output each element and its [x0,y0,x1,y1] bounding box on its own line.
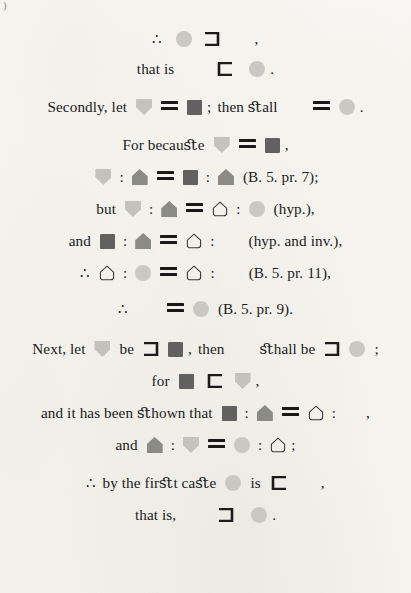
comma: , [254,30,260,48]
shall-be-text: ﬆhall be [259,340,317,358]
ratio-colon: : [115,169,127,186]
circle-symbol [339,99,355,115]
semicolon: ; [373,340,379,358]
be-text: be [118,340,135,358]
shield-symbol [125,201,141,217]
for-text: for [151,372,171,390]
circle-symbol [249,201,265,217]
period: . [269,60,275,78]
and-text: and [114,436,138,454]
house-pentagon-symbol [135,233,151,249]
equals-symbol [239,139,256,151]
circle-symbol [135,265,151,281]
and-text: and [68,232,92,250]
diamond-symbol [299,475,316,491]
by-the-first-case-text: by the firﬆt caﬆe [101,474,217,492]
hollow-pentagon-symbol [186,265,202,281]
house-pentagon-symbol [147,437,163,453]
then-shall-text: then ﬆall [216,98,278,116]
ratio-colon: : [232,201,244,218]
superset-bracket-symbol [205,32,220,46]
and-it-has-been-shown-that-text: and it has been ﬆhown that [40,404,214,422]
comma: , [284,136,290,154]
secondly-let-text: Secondly, let [46,98,128,116]
hollow-pentagon-symbol [270,437,286,453]
then-text: then [197,340,226,358]
hollow-pentagon-symbol [308,405,324,421]
proof-line-14: ∴ by the firﬆt caﬆe is , [0,474,411,492]
that-is-text: that is [136,60,175,78]
diamond-symbol [344,405,361,421]
diamond-symbol [183,61,200,77]
shield-symbol [235,373,251,389]
square-symbol [187,100,202,115]
hollow-pentagon-symbol [99,265,115,281]
circle-symbol [251,507,267,523]
proof-line-8: ∴ : : (B. 5. pr. 11), [0,264,411,282]
equals-symbol [157,171,174,183]
square-symbol [222,406,237,421]
ratio-colon: : [145,201,157,218]
circle-symbol [176,31,192,47]
equals-symbol [208,439,225,451]
next-let-text: Next, let [31,340,86,358]
circle-symbol [225,475,241,491]
proof-line-15: that is, . [0,506,411,524]
comma: , [255,372,261,390]
shield-symbol [94,341,110,357]
therefore-symbol: ∴ [117,300,129,318]
proof-line-10: Next, let be , then ﬆhall be ; [0,340,411,358]
house-pentagon-symbol [218,169,234,185]
citation-reference: (hyp. and inv.), [247,232,343,250]
diamond-symbol [223,265,240,281]
square-symbol [183,170,198,185]
comma: , [365,404,371,422]
subset-bracket-symbol [271,476,286,490]
proof-line-2: that is . [0,60,411,78]
hollow-pentagon-symbol [186,233,202,249]
proof-line-7: and : : (hyp. and inv.), [0,232,411,250]
proof-line-13: and : : ; [0,436,411,454]
comma: , [320,474,326,492]
circle-symbol [193,301,209,317]
superset-bracket-symbol [325,342,340,356]
circle-symbol [234,437,250,453]
euclid-page: ) ∴ , that is . Secondly, let ; then [0,0,411,593]
proof-line-5: : : (B. 5. pr. 7); [0,168,411,186]
square-symbol [179,374,194,389]
therefore-symbol: ∴ [151,30,163,48]
diamond-symbol [141,301,158,317]
ratio-colon: : [254,437,266,454]
comma: , [187,340,193,358]
citation-reference: (B. 5. pr. 9). [217,300,294,318]
is-text: is [249,474,261,492]
subset-bracket-symbol [217,62,232,76]
that-is-text: that is, [134,506,177,524]
diamond-symbol [287,99,304,115]
equals-symbol [282,407,299,419]
for-because-text: For becauﬆe [121,136,205,154]
house-pentagon-symbol [257,405,273,421]
proof-line-9: ∴ (B. 5. pr. 9). [0,300,411,318]
therefore-symbol: ∴ [79,264,91,282]
semicolon: ; [290,436,296,454]
citation-reference: (B. 5. pr. 7); [242,168,320,186]
equals-symbol [161,101,178,113]
ratio-colon: : [202,169,214,186]
diamond-symbol [185,507,202,523]
citation-reference: (hyp.), [273,200,316,218]
square-symbol [168,342,183,357]
shield-symbol [136,99,152,115]
equals-symbol [313,101,330,113]
proof-line-1: ∴ , [0,30,411,48]
equals-symbol [167,303,184,315]
semicolon: ; [206,98,212,116]
ratio-colon: : [206,233,218,250]
house-pentagon-symbol [132,169,148,185]
therefore-symbol: ∴ [85,474,97,492]
proof-line-3: Secondly, let ; then ﬆall . [0,98,411,116]
shield-symbol [183,437,199,453]
citation-reference: (B. 5. pr. 11), [248,264,332,282]
equals-symbol [160,267,177,279]
proof-line-4: For becauﬆe , [0,136,411,154]
